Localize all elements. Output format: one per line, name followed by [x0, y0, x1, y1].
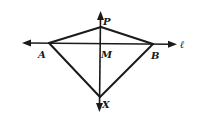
arrow-left-icon — [22, 40, 31, 47]
label-P: P — [102, 16, 111, 27]
label-X: X — [101, 99, 111, 110]
label-A: A — [37, 49, 46, 60]
geometry-diagram: P A M B ℓ X — [0, 0, 201, 121]
segment-PB — [101, 27, 153, 44]
diagram-svg: P A M B ℓ X — [0, 0, 201, 121]
label-M: M — [100, 49, 113, 60]
label-B: B — [150, 50, 159, 61]
arrow-right-icon — [168, 41, 177, 48]
label-l: ℓ — [180, 39, 184, 50]
segment-XA — [49, 43, 100, 97]
segment-PA — [49, 27, 101, 43]
